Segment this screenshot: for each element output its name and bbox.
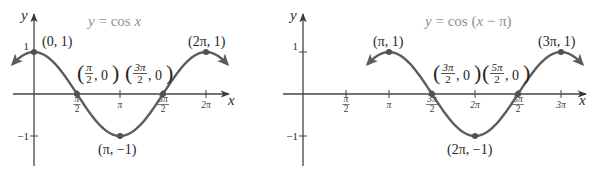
svg-text:(: (	[125, 60, 132, 85]
svg-text:3π: 3π	[133, 61, 146, 73]
svg-text:(: (	[433, 60, 440, 85]
y-axis-label: y	[288, 7, 297, 23]
key-point-label: (3π2, 0)	[433, 60, 481, 85]
key-point-marker	[558, 49, 564, 55]
x-tick-label: π	[118, 100, 123, 110]
x-tick-label: π	[387, 100, 392, 110]
y-tick-label: −1	[17, 130, 29, 142]
key-point-label: (π2, 0)	[77, 60, 119, 85]
svg-text:2: 2	[445, 73, 451, 85]
x-tick-label-numerator: π	[344, 94, 349, 104]
key-point-label: (3π, 1)	[538, 34, 576, 50]
x-tick-label: 3π	[555, 100, 566, 110]
panel-cos-x-minus-pi: y = cos (x − π) y x π2π3π22π5π23π1−1(π, …	[283, 7, 586, 166]
y-axis-label: y	[19, 7, 28, 23]
svg-text:2: 2	[86, 73, 92, 85]
key-point-marker	[117, 133, 123, 139]
key-point-marker	[203, 49, 209, 55]
svg-text:2: 2	[137, 73, 143, 85]
cosine-graphs-figure: y = cos x y x π2π3π22π1−1(0, 1)(π2, 0)(π…	[0, 0, 595, 176]
key-point-label: (0, 1)	[42, 34, 73, 50]
x-tick-label-denominator: 2	[161, 104, 166, 114]
svg-text:3π: 3π	[441, 61, 454, 73]
y-tick-label: 1	[293, 40, 299, 52]
svg-text:(: (	[482, 60, 489, 85]
x-tick-label-denominator: 2	[430, 104, 435, 114]
svg-text:): )	[112, 60, 119, 85]
svg-text:, 0: , 0	[505, 68, 519, 83]
key-point-marker	[515, 91, 521, 97]
x-tick-label: 2π	[201, 100, 211, 110]
key-point-label: (3π2, 0)	[125, 60, 173, 85]
key-point-label: (π, −1)	[98, 142, 137, 158]
svg-text:): )	[523, 60, 530, 85]
panel-cos-x: y = cos x y x π2π3π22π1−1(0, 1)(π2, 0)(π…	[13, 7, 235, 166]
svg-text:): )	[474, 60, 481, 85]
key-point-label: (2π, −1)	[447, 142, 493, 158]
key-point-marker	[74, 91, 80, 97]
key-point-marker	[472, 133, 478, 139]
key-point-label: (2π, 1)	[188, 34, 226, 50]
key-point-marker	[386, 49, 392, 55]
x-tick-label-denominator: 2	[344, 104, 349, 114]
graph-title: y = cos (x − π)	[423, 13, 512, 30]
svg-text:, 0: , 0	[456, 68, 470, 83]
svg-text:, 0: , 0	[94, 68, 108, 83]
svg-text:5π: 5π	[491, 61, 503, 73]
y-tick-label: −1	[286, 130, 298, 142]
key-point-marker	[31, 49, 37, 55]
svg-text:2: 2	[494, 73, 500, 85]
x-tick-label: 2π	[470, 100, 480, 110]
graph-title: y = cos x	[86, 13, 141, 29]
x-tick-label-denominator: 2	[516, 104, 521, 114]
svg-text:(: (	[77, 60, 84, 85]
svg-text:): )	[166, 60, 173, 85]
y-tick-label: 1	[24, 40, 30, 52]
key-point-label: (5π2, 0)	[482, 60, 530, 85]
key-point-marker	[160, 91, 166, 97]
key-point-label: (π, 1)	[373, 34, 404, 50]
key-point-marker	[429, 91, 435, 97]
svg-text:π: π	[86, 61, 92, 73]
svg-text:, 0: , 0	[148, 68, 162, 83]
x-tick-label-denominator: 2	[75, 104, 80, 114]
